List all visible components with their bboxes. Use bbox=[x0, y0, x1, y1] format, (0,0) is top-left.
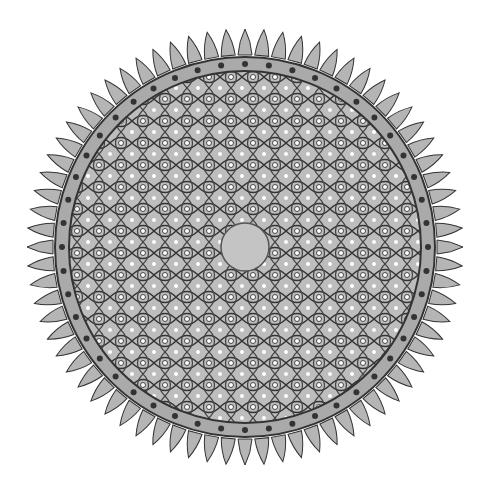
rosette bbox=[0, 0, 488, 489]
central-boss bbox=[221, 223, 269, 271]
